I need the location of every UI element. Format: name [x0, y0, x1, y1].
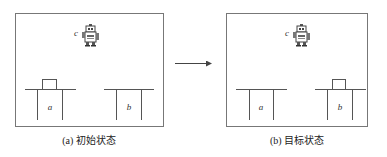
robot-icon — [293, 24, 310, 47]
table-a — [25, 80, 76, 121]
block — [333, 80, 346, 90]
panel-goal — [227, 14, 368, 127]
table-label: a — [259, 102, 264, 112]
table-label: b — [338, 102, 343, 112]
caption-goal: (b) 目标状态 — [270, 132, 324, 147]
table-label: b — [127, 102, 132, 112]
caption-initial: (a) 初始状态 — [62, 132, 116, 147]
robot-icon — [82, 24, 99, 47]
diagram-canvas — [0, 0, 387, 157]
table-label: a — [48, 102, 53, 112]
robot-label: c — [74, 28, 78, 38]
table-b — [315, 80, 366, 121]
block — [43, 80, 57, 90]
panel-initial — [16, 14, 164, 127]
robot-label: c — [285, 28, 289, 38]
